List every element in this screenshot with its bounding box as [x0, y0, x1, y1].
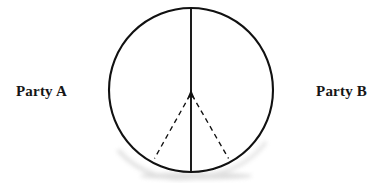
diagram-canvas: Party A Party B — [0, 0, 383, 183]
label-party-b: Party B — [316, 84, 367, 99]
label-party-a: Party A — [16, 84, 67, 99]
